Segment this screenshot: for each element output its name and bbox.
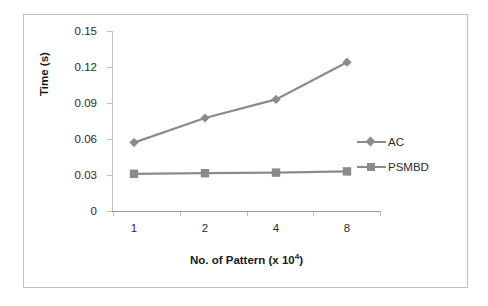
x-axis-tick	[380, 212, 381, 216]
legend-marker-square-icon	[367, 163, 375, 171]
x-axis-tick-label: 1	[131, 222, 137, 234]
data-point-marker-diamond	[342, 58, 351, 67]
y-axis-tick	[107, 139, 112, 140]
x-axis-title-tail: )	[299, 254, 303, 266]
data-point-marker-diamond	[129, 138, 138, 147]
x-axis-title-base: No. of Pattern (x 10	[190, 254, 295, 266]
legend-item-ac: AC	[357, 129, 457, 154]
legend-label: PSMBD	[386, 161, 429, 173]
chart-legend: ACPSMBD	[357, 129, 457, 179]
y-axis-title: Time (s)	[38, 52, 50, 96]
legend-label: AC	[386, 136, 404, 148]
data-point-marker-square	[201, 169, 209, 177]
chart-figure: 0.150.120.090.060.030 1248 Time (s) No. …	[0, 0, 488, 306]
data-point-marker-diamond	[200, 113, 209, 122]
y-axis-tick	[107, 67, 112, 68]
y-axis-tick	[107, 31, 112, 32]
y-axis-tick-label: 0.12	[75, 61, 104, 73]
series-canvas	[113, 31, 380, 211]
x-axis-tick-label: 2	[202, 222, 208, 234]
y-axis-tick	[107, 175, 112, 176]
legend-swatch	[357, 136, 386, 148]
x-axis-tick	[313, 212, 314, 216]
x-axis-tick	[180, 212, 181, 216]
data-point-marker-square	[343, 167, 351, 175]
y-axis-tick	[107, 211, 112, 212]
y-axis-tick-label: 0.09	[75, 97, 104, 109]
y-axis-tick-label: 0.03	[75, 169, 104, 181]
series-line-ac	[134, 62, 347, 142]
series-line-psmbd	[134, 171, 347, 173]
data-point-marker-diamond	[271, 95, 280, 104]
y-axis-tick-label: 0.15	[75, 25, 104, 37]
x-axis-tick	[113, 212, 114, 216]
plot-area	[113, 31, 380, 211]
x-axis-tick-label: 4	[273, 222, 279, 234]
data-point-marker-square	[272, 168, 280, 176]
legend-marker-diamond-icon	[366, 136, 376, 146]
x-axis-title: No. of Pattern (x 104)	[113, 252, 380, 266]
y-axis-tick-label: 0.06	[75, 133, 104, 145]
legend-swatch	[357, 161, 386, 173]
legend-item-psmbd: PSMBD	[357, 154, 457, 179]
y-axis-tick	[107, 103, 112, 104]
x-axis-tick	[247, 212, 248, 216]
y-axis-tick-label: 0	[91, 205, 104, 217]
data-point-marker-square	[130, 170, 138, 178]
x-axis-tick-label: 8	[344, 222, 350, 234]
